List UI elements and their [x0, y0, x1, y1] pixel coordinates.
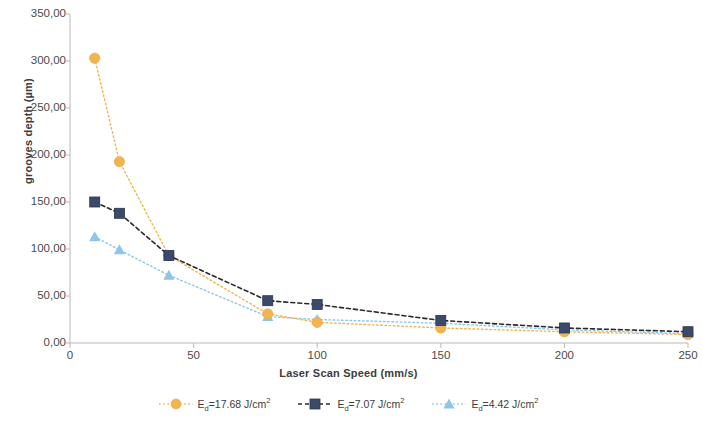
data-point[interactable] — [312, 299, 322, 309]
legend-marker-icon — [159, 398, 193, 410]
legend-label: Ed=4.42 J/cm2 — [471, 396, 538, 413]
legend-symbol — [171, 399, 181, 409]
series-line — [95, 58, 688, 334]
legend-label: Ed=7.07 J/cm2 — [337, 396, 404, 413]
data-point[interactable] — [114, 156, 124, 166]
x-tick-label: 150 — [421, 350, 461, 362]
series-line — [95, 202, 688, 332]
legend-marker-icon — [432, 398, 466, 410]
x-tick-label: 100 — [297, 350, 337, 362]
data-point[interactable] — [89, 231, 100, 241]
legend-marker-icon — [298, 398, 332, 410]
series-1 — [90, 197, 693, 337]
series-2 — [89, 231, 693, 338]
data-point[interactable] — [683, 327, 693, 337]
chart-legend: Ed=17.68 J/cm2Ed=7.07 J/cm2Ed=4.42 J/cm2 — [0, 396, 697, 413]
legend-entry[interactable]: Ed=4.42 J/cm2 — [432, 396, 538, 413]
x-tick-label: 0 — [50, 350, 90, 362]
data-point[interactable] — [164, 251, 174, 261]
legend-entry[interactable]: Ed=17.68 J/cm2 — [159, 396, 271, 413]
data-point[interactable] — [559, 323, 569, 333]
legend-entry[interactable]: Ed=7.07 J/cm2 — [298, 396, 404, 413]
data-point[interactable] — [263, 296, 273, 306]
x-tick-label: 250 — [668, 350, 702, 362]
series-line — [95, 237, 688, 334]
x-tick-label: 50 — [174, 350, 214, 362]
data-point[interactable] — [114, 244, 125, 254]
data-point[interactable] — [90, 197, 100, 207]
x-tick-label: 200 — [544, 350, 584, 362]
data-point[interactable] — [436, 315, 446, 325]
legend-label: Ed=17.68 J/cm2 — [198, 396, 271, 413]
data-point[interactable] — [263, 309, 273, 319]
data-point[interactable] — [114, 208, 124, 218]
series-0 — [90, 53, 694, 340]
legend-symbol — [310, 399, 320, 409]
data-point[interactable] — [90, 53, 100, 63]
x-axis-title: Laser Scan Speed (mm/s) — [0, 367, 697, 379]
data-point[interactable] — [312, 317, 322, 327]
data-point[interactable] — [163, 270, 174, 280]
